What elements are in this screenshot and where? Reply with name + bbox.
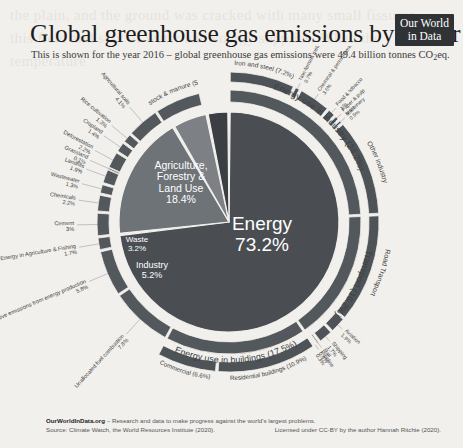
leader-food-tobacco [332, 108, 336, 112]
ring-mid-agricultural-soils[interactable] [131, 113, 162, 142]
chart-sheet: Global greenhouse gas emissions by secto… [0, 0, 463, 448]
pie-label-energy: Energy73.2% [232, 213, 293, 255]
owid-logo[interactable]: Our World in Data [395, 14, 454, 46]
radial-label-cement: Cement3% [54, 220, 74, 232]
radial-label-wastewater: Wastewater1.3% [49, 171, 81, 190]
sunburst-chart: Energy73.2%Agriculture,Forestry &Land Us… [0, 46, 463, 406]
footer-license[interactable]: Licensed under CC-BY by the author Hanna… [275, 426, 441, 435]
footer-source: Source: Climate Watch, the World Resourc… [46, 426, 215, 435]
leader-non-ferrous-metals [298, 83, 301, 88]
owid-logo-line2: in Data [400, 30, 449, 43]
leader-deforestation [95, 150, 113, 159]
owid-logo-line1: Our World [400, 17, 449, 30]
leader-machinery [341, 118, 345, 122]
footer-line1: OurWorldInData.org – Research and data t… [46, 417, 441, 426]
leader-energy-in-agriculture-fishing [79, 244, 99, 247]
leader-chemical-petrochemical [315, 94, 318, 99]
ring-mid-cement[interactable] [97, 213, 110, 236]
ring-outer-shipping[interactable] [314, 325, 330, 341]
leader-rice-cultivation [112, 125, 127, 138]
leader-grassland [90, 160, 108, 168]
leader-cropland [104, 136, 120, 147]
leader-pipeline [315, 345, 318, 350]
leader-landfills [86, 169, 105, 176]
leader-unallocated-fuel-combustion [126, 319, 140, 334]
leader-fugitive-emissions-from-energy-production [89, 274, 107, 282]
radial-label-energy-in-agriculture-fishing: Energy in Agriculture & Fishing1.7% [0, 243, 77, 268]
footer: OurWorldInData.org – Research and data t… [46, 417, 441, 434]
leader-paper-pulp [337, 114, 341, 118]
sunburst-svg: Energy73.2%Agriculture,Forestry &Land Us… [0, 46, 463, 406]
pie-label-waste: Waste3.2% [126, 235, 149, 253]
ring-mid-chemicals[interactable] [97, 195, 111, 212]
leader-rail [318, 343, 322, 348]
leader-agricultural-soils [130, 107, 143, 122]
footer-brand[interactable]: OurWorldInData.org [46, 417, 105, 424]
footer-line2: Source: Climate Watch, the World Resourc… [46, 426, 441, 435]
radial-label-agricultural-soils: Agricultural soils4.1% [96, 71, 132, 110]
leader-shipping [326, 337, 330, 342]
leader-aviation [338, 325, 342, 329]
radial-label-fugitive-emissions-from-energy-production: Fugitive emissions from energy productio… [0, 278, 89, 330]
radial-label-chemicals: Chemicals2.2% [49, 191, 77, 207]
arc-label-livestock-manure: Livestock & manure (5.8%) [0, 46, 199, 106]
ring-mid-energy-in-agriculture-fishing[interactable] [98, 237, 112, 250]
footer-tagline: – Research and data to make progress aga… [107, 417, 316, 424]
leader-chemicals [79, 200, 99, 203]
leader-wastewater [82, 184, 101, 189]
radial-label-unallocated-fuel-combustion: Unallocated fuel combustion7.8% [73, 333, 129, 393]
ring-mid-wastewater[interactable] [100, 185, 114, 196]
radial-label-aviation: Aviation1.9% [340, 328, 362, 350]
